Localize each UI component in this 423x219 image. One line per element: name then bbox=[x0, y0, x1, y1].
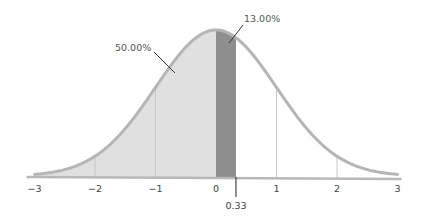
x-axis bbox=[27, 177, 402, 179]
marker-value-label: 0.33 bbox=[225, 200, 246, 211]
x-tick-label: 0 bbox=[213, 183, 219, 194]
band-region bbox=[216, 30, 236, 178]
x-tick-labels: −3−2−10123 bbox=[27, 183, 400, 194]
x-tick-label: 1 bbox=[273, 183, 279, 194]
normal-distribution-chart: −3−2−10123 50.00% 13.00% 0.33 bbox=[0, 0, 423, 219]
x-tick-label: 2 bbox=[334, 183, 340, 194]
x-axis-line bbox=[27, 177, 402, 179]
x-tick-label: 3 bbox=[394, 183, 400, 194]
x-tick-label: −1 bbox=[148, 183, 162, 194]
left-region-percent-label: 50.00% bbox=[115, 42, 151, 53]
x-tick-label: −3 bbox=[27, 183, 41, 194]
x-tick-label: −2 bbox=[88, 183, 102, 194]
band-region-percent-label: 13.00% bbox=[244, 13, 280, 24]
